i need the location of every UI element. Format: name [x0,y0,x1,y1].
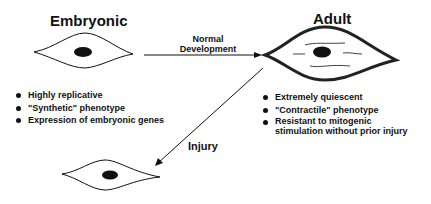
adult-trait: Extremely quiescent [261,91,408,104]
normal-development-label: Normal Development [172,34,244,54]
embryonic-trait: "Synthetic" phenotype [14,102,164,115]
embryonic-trait: Highly replicative [14,89,164,102]
injury-label: Injury [188,140,218,152]
injured-cell [62,160,160,190]
embryonic-traits: Highly replicative "Synthetic" phenotype… [14,89,164,127]
embryonic-cell [34,33,133,68]
adult-traits: Extremely quiescent "Contractile" phenot… [261,91,408,136]
embryonic-trait: Expression of embryonic genes [14,114,164,127]
adult-title: Adult [313,10,351,27]
adult-trait: Resistant to mitogenic stimulation witho… [261,116,408,136]
adult-trait: "Contractile" phenotype [261,104,408,117]
adult-cell [265,27,396,80]
embryonic-title: Embryonic [50,12,128,29]
